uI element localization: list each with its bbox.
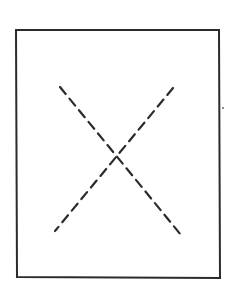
diagonal-ascending-line [55, 88, 173, 231]
frame-rectangle [16, 30, 220, 278]
x-diagram [0, 0, 228, 294]
stray-dot-mark [222, 107, 224, 109]
diagonal-descending-line [60, 87, 181, 235]
